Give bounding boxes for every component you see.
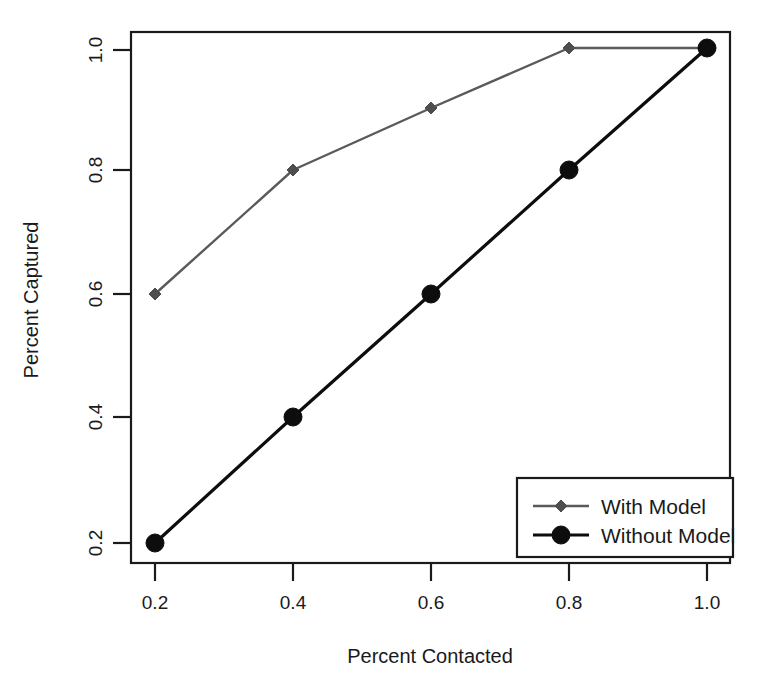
y-tick-label-0.4: 0.4 xyxy=(85,403,106,430)
x-tick-label-0.2: 0.2 xyxy=(142,592,168,613)
data-point-without-model-0 xyxy=(146,534,164,552)
x-axis-tick-labels: 0.2 0.4 0.6 0.8 1.0 xyxy=(142,592,720,613)
data-point-with-model-2 xyxy=(425,102,437,114)
x-tick-label-0.4: 0.4 xyxy=(280,592,307,613)
chart-container: 1.0 0.8 0.6 0.4 0.2 0.2 0.4 0.6 0.8 1.0 … xyxy=(0,0,770,699)
y-tick-label-0.2: 0.2 xyxy=(85,530,106,556)
data-point-without-model-1 xyxy=(284,408,302,426)
y-tick-label-1.0: 1.0 xyxy=(85,37,106,63)
series-without-model xyxy=(146,39,716,552)
y-axis-title: Percent Captured xyxy=(20,222,42,379)
x-tick-label-1.0: 1.0 xyxy=(694,592,720,613)
y-tick-label-0.8: 0.8 xyxy=(85,157,106,183)
data-point-without-model-2 xyxy=(422,285,440,303)
x-axis-ticks xyxy=(155,563,707,581)
legend-label-with-model: With Model xyxy=(601,495,706,518)
legend-entry-without-model: Without Model xyxy=(533,524,735,547)
x-axis-title: Percent Contacted xyxy=(347,645,513,667)
y-tick-label-0.6: 0.6 xyxy=(85,281,106,307)
data-point-without-model-3 xyxy=(560,161,578,179)
data-point-with-model-3 xyxy=(563,42,575,54)
y-axis-tick-labels: 1.0 0.8 0.6 0.4 0.2 xyxy=(85,37,106,556)
legend-label-without-model: Without Model xyxy=(601,524,735,547)
x-tick-label-0.8: 0.8 xyxy=(556,592,582,613)
legend: With Model Without Model xyxy=(517,478,735,557)
y-axis-ticks xyxy=(113,50,131,543)
lift-chart: 1.0 0.8 0.6 0.4 0.2 0.2 0.4 0.6 0.8 1.0 … xyxy=(0,0,770,699)
x-tick-label-0.6: 0.6 xyxy=(418,592,444,613)
legend-marker-without-model xyxy=(552,526,570,544)
data-point-without-model-4 xyxy=(698,39,716,57)
series-with-model-line xyxy=(155,48,707,294)
series-with-model xyxy=(149,42,713,300)
